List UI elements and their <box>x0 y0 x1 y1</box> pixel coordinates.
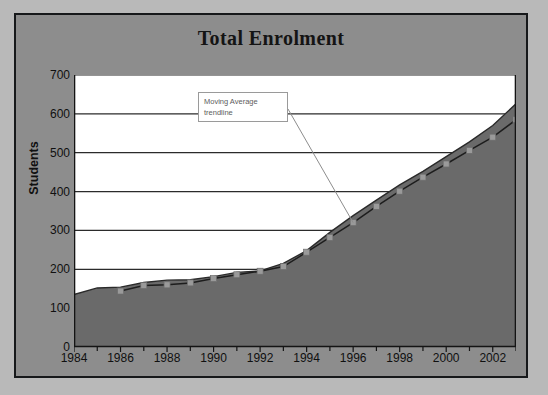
y-tick-label: 100 <box>36 301 70 315</box>
plot-area <box>74 75 516 347</box>
x-tick-label: 2000 <box>423 351 469 365</box>
x-tick-label: 1998 <box>377 351 423 365</box>
x-tick-label: 1984 <box>51 351 97 365</box>
x-axis-tick-labels: 1984198619881990199219941996199820002002 <box>74 351 516 371</box>
area-series <box>74 104 516 347</box>
y-tick-label: 200 <box>36 262 70 276</box>
x-tick-label: 1990 <box>191 351 237 365</box>
x-tick-label: 1988 <box>144 351 190 365</box>
y-tick-label: 300 <box>36 223 70 237</box>
x-tick-label: 1994 <box>284 351 330 365</box>
x-tick-label: 1996 <box>330 351 376 365</box>
y-tick-label: 700 <box>36 68 70 82</box>
chart-title: Total Enrolment <box>16 27 526 50</box>
moving-average-callout: Moving Average trendline <box>198 92 288 122</box>
x-tick-label: 2002 <box>470 351 516 365</box>
slide-page: Total Enrolment Students 010020030040050… <box>0 0 548 395</box>
callout-line-1: Moving Average <box>204 96 283 107</box>
y-tick-label: 500 <box>36 146 70 160</box>
x-tick-label: 1986 <box>98 351 144 365</box>
chart-canvas <box>74 75 516 353</box>
y-tick-label: 400 <box>36 185 70 199</box>
y-axis-tick-labels: 0100200300400500600700 <box>30 75 70 347</box>
callout-line-2: trendline <box>204 107 283 118</box>
chart-frame: Total Enrolment Students 010020030040050… <box>14 13 528 378</box>
annotation-leader-line <box>288 109 353 223</box>
y-tick-label: 600 <box>36 107 70 121</box>
x-tick-label: 1992 <box>237 351 283 365</box>
